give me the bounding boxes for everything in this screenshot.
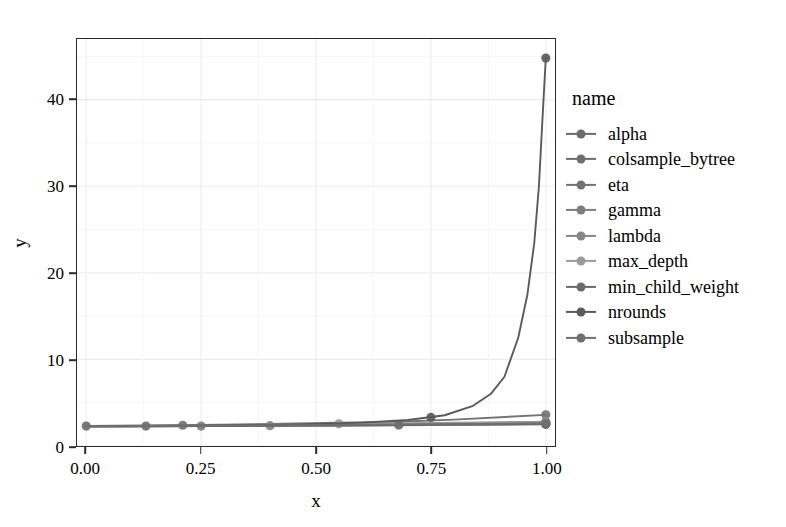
legend-point-swatch [577, 231, 586, 240]
legend-key-icon [566, 276, 596, 298]
legend-item-min_child_weight[interactable]: min_child_weight [566, 274, 781, 300]
legend-point-swatch [577, 155, 586, 164]
legend-point-swatch [577, 308, 586, 317]
legend-item-colsample_bytree[interactable]: colsample_bytree [566, 147, 781, 173]
legend-item-gamma[interactable]: gamma [566, 198, 781, 224]
legend-item-label: eta [608, 176, 629, 194]
legend-key-icon [566, 199, 596, 221]
legend-point-swatch [577, 206, 586, 215]
legend-items: alphacolsample_bytreeetagammalambdamax_d… [566, 121, 781, 351]
legend-title: name [572, 88, 781, 108]
y-axis-title: y [9, 238, 31, 248]
x-tick-mark [431, 447, 433, 454]
legend-key-icon [566, 301, 596, 323]
legend-point-swatch [577, 333, 586, 342]
y-tick-mark [69, 446, 76, 448]
legend-key-icon [566, 174, 596, 196]
legend-item-label: max_depth [608, 252, 688, 270]
legend-key-icon [566, 225, 596, 247]
x-tick-mark [200, 447, 202, 454]
legend-item-label: alpha [608, 125, 647, 143]
y-tick-mark [69, 185, 76, 187]
y-tick-label: 20 [47, 264, 64, 281]
legend-item-label: min_child_weight [608, 278, 739, 296]
legend-point-swatch [577, 257, 586, 266]
legend-item-label: colsample_bytree [608, 150, 735, 168]
gridlines [77, 39, 555, 446]
plot-panel [76, 38, 556, 447]
legend-item-label: lambda [608, 227, 661, 245]
legend-key-icon [566, 148, 596, 170]
legend-item-eta[interactable]: eta [566, 172, 781, 198]
legend-point-swatch [577, 282, 586, 291]
legend-key-icon [566, 250, 596, 272]
x-tick-label: 1.00 [532, 460, 562, 477]
x-tick-mark [315, 447, 317, 454]
legend-item-lambda[interactable]: lambda [566, 223, 781, 249]
legend-item-label: gamma [608, 201, 661, 219]
y-tick-mark [69, 359, 76, 361]
legend-item-max_depth[interactable]: max_depth [566, 249, 781, 275]
series-nrounds [86, 53, 550, 426]
y-tick-label: 10 [47, 351, 64, 368]
x-tick-label: 0.25 [186, 460, 216, 477]
x-tick-mark [84, 447, 86, 454]
x-tick-label: 0.50 [301, 460, 331, 477]
chart-figure: y x 010203040 0.000.250.500.751.00 name … [0, 0, 786, 527]
legend-item-nrounds[interactable]: nrounds [566, 300, 781, 326]
x-tick-label: 0.75 [417, 460, 447, 477]
x-axis-title: x [311, 490, 321, 512]
y-tick-label: 30 [47, 177, 64, 194]
legend-point-swatch [577, 129, 586, 138]
legend-item-label: subsample [608, 329, 684, 347]
legend-point-swatch [577, 180, 586, 189]
plot-area [77, 39, 555, 446]
y-tick-mark [69, 272, 76, 274]
x-tick-label: 0.00 [70, 460, 100, 477]
x-tick-mark [546, 447, 548, 454]
legend: name alphacolsample_bytreeetagammalambda… [566, 88, 781, 351]
legend-key-icon [566, 327, 596, 349]
legend-item-alpha[interactable]: alpha [566, 121, 781, 147]
legend-key-icon [566, 123, 596, 145]
y-tick-mark [69, 98, 76, 100]
legend-item-subsample[interactable]: subsample [566, 325, 781, 351]
legend-item-label: nrounds [608, 303, 666, 321]
y-tick-label: 40 [47, 90, 64, 107]
y-tick-label: 0 [56, 439, 65, 456]
